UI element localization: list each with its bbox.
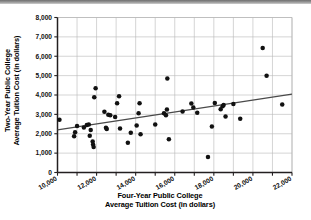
y-axis-tick-labels: 01,0002,0003,0004,0005,0006,0007,0008,00… [35, 14, 52, 176]
x-axis-tick-label: 10,000 [37, 175, 59, 192]
data-point [153, 122, 158, 127]
x-axis-tick-label: 20,000 [232, 175, 254, 192]
y-axis-tick-label: 6,000 [35, 53, 52, 61]
grid-lines [58, 18, 293, 173]
data-point [115, 101, 120, 106]
data-point [88, 128, 93, 133]
x-axis-tick-label: 18,000 [193, 175, 215, 192]
data-point [260, 46, 265, 51]
y-axis-tick-label: 4,000 [35, 91, 52, 99]
data-point [210, 124, 215, 129]
data-point [137, 101, 142, 106]
data-point [113, 115, 118, 120]
data-point [164, 113, 169, 118]
x-axis-tick-label: 14,000 [115, 175, 137, 192]
data-point [213, 101, 218, 106]
y-axis-title: Two-Year Public College Average Tuition … [4, 29, 21, 153]
data-point [180, 109, 185, 114]
y-axis-tick-label: 8,000 [35, 14, 52, 22]
y-axis-tick-label: 0 [48, 169, 52, 176]
y-axis-tick-label: 1,000 [35, 149, 52, 157]
data-point [72, 134, 77, 139]
y-axis-tick-label: 2,000 [35, 130, 52, 138]
data-point [206, 155, 211, 160]
x-axis-tick-label: 22,000 [272, 175, 294, 192]
x-axis-tick-label: 16,000 [154, 175, 176, 192]
x-axis-title: Four-Year Public College Average Tuition… [60, 192, 260, 209]
data-point [57, 118, 62, 123]
x-axis-tick-labels: 10,00012,00014,00016,00018,00020,00022,0… [37, 175, 293, 192]
data-point [118, 126, 123, 131]
data-point [117, 94, 122, 99]
data-point [136, 111, 141, 116]
data-point [73, 130, 78, 135]
y-axis-tick-label: 5,000 [35, 72, 52, 80]
data-point [87, 133, 92, 138]
data-point [91, 145, 96, 150]
data-point [93, 86, 98, 91]
x-axis-title-line2: Average Tuition Cost (in dollars) [60, 201, 260, 210]
data-point [104, 127, 109, 132]
data-point [195, 111, 200, 116]
data-point [129, 131, 134, 136]
data-point [165, 76, 170, 81]
data-point [167, 137, 172, 142]
x-axis-tick-label: 12,000 [76, 175, 98, 192]
data-point [191, 105, 196, 110]
y-axis-tick-label: 7,000 [35, 33, 52, 41]
y-axis-title-line2: Average Tuition Cost (in dollars) [13, 29, 22, 153]
data-point [75, 124, 80, 129]
data-point-series [57, 46, 284, 159]
data-point [134, 123, 139, 128]
data-point [223, 114, 228, 119]
data-point [138, 132, 143, 137]
data-point [221, 103, 226, 108]
data-point [165, 107, 170, 112]
data-point [231, 102, 236, 107]
data-point [264, 74, 269, 79]
data-point [102, 110, 107, 115]
scatter-plot-figure: 10,00012,00014,00016,00018,00020,00022,0… [0, 0, 311, 220]
data-point [280, 102, 285, 107]
y-axis-tick-label: 3,000 [35, 111, 52, 119]
data-point [92, 95, 97, 100]
data-point [87, 122, 92, 127]
data-point [189, 101, 194, 106]
data-point [126, 140, 131, 145]
plot-canvas: 10,00012,00014,00016,00018,00020,00022,0… [0, 0, 311, 220]
data-point [238, 117, 243, 122]
data-point [108, 113, 113, 118]
